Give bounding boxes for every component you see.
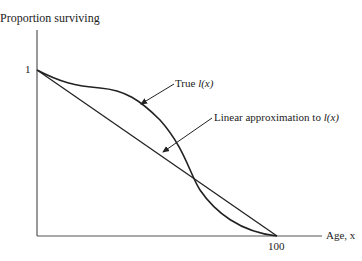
true-lx-annotation: True l(x) (175, 77, 213, 89)
y-tick-1: 1 (25, 63, 31, 75)
true-lx-prefix: True (175, 77, 198, 89)
chart-canvas (0, 0, 362, 261)
x-axis-label: Age, x (326, 229, 355, 241)
linear-annotation: Linear approximation to l(x) (214, 111, 339, 123)
true-lx-fn: l(x) (198, 77, 213, 89)
true-lx-arrow (141, 84, 174, 104)
linear-approximation-line (37, 70, 277, 236)
x-tick-100: 100 (268, 240, 285, 252)
linear-fn: l(x) (324, 111, 339, 123)
y-axis-label: Proportion surviving (0, 11, 100, 26)
linear-arrow (163, 118, 212, 152)
linear-prefix: Linear approximation to (214, 111, 324, 123)
